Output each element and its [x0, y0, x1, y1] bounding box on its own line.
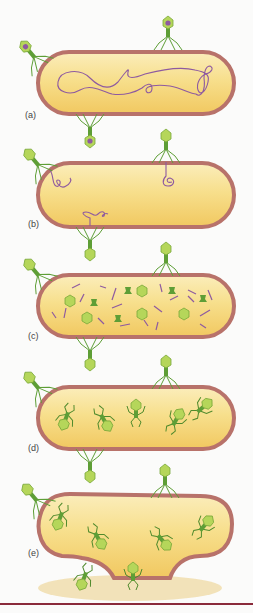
panel-label-b: (b)	[28, 219, 39, 229]
panel-label-c: (c)	[28, 331, 39, 341]
panel-label-e: (e)	[28, 548, 39, 558]
phage-icon	[76, 114, 104, 148]
panel-e: (e)	[12, 464, 232, 601]
phage-head-part	[82, 312, 92, 324]
bacterium-cell	[38, 163, 234, 227]
phage-icon	[151, 464, 179, 498]
phage-head-part	[179, 308, 189, 320]
panel-label-a: (a)	[25, 110, 36, 120]
panel-c: (c)	[14, 242, 234, 371]
phage-head-part	[137, 308, 147, 320]
phage-head-part	[65, 295, 75, 307]
phage-icon	[152, 355, 180, 389]
phage-icon	[76, 227, 104, 261]
phage-head-part	[137, 285, 147, 297]
panel-b: (b)	[14, 129, 234, 261]
panel-label-d: (d)	[28, 443, 39, 453]
phage-icon	[152, 242, 180, 276]
lytic-cycle-diagram: (a) (b)	[0, 0, 253, 613]
phage-icon	[76, 337, 104, 371]
phage-icon	[154, 16, 182, 50]
panel-a: (a)	[10, 16, 234, 148]
phage-icon	[76, 449, 104, 483]
phage-icon	[152, 129, 180, 163]
panel-d: (d)	[14, 355, 234, 483]
